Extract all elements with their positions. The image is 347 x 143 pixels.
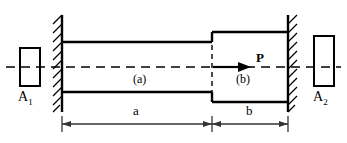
arrow-right-icon — [213, 62, 251, 72]
left-wall-hatching — [53, 15, 62, 112]
segment-label-a: (a) — [133, 73, 146, 85]
force-arrow-head — [238, 62, 251, 72]
dimension-arrowhead-a-right — [203, 121, 212, 127]
dimension-line-icon — [62, 116, 288, 132]
force-label-p: P — [256, 51, 264, 64]
area-label-a2: A2 — [313, 90, 328, 107]
dimension-arrowhead-b-left — [212, 121, 221, 127]
area-label-a1: A1 — [18, 90, 33, 107]
left-support-wall — [53, 15, 62, 112]
dimension-label-a: a — [133, 104, 139, 117]
dimension-label-b: b — [246, 104, 253, 117]
right-support-wall — [288, 15, 297, 112]
segment-label-b: (b) — [236, 73, 250, 85]
dimension-arrowhead-a-left — [62, 121, 71, 127]
stepped-bar-diagram: A1 A2 (a) (b) P a b — [0, 0, 347, 143]
cross-section-rect-a2 — [314, 36, 334, 86]
right-wall-hatching — [288, 15, 297, 112]
dimension-arrowhead-b-right — [279, 121, 288, 127]
diagram-canvas — [0, 0, 347, 143]
